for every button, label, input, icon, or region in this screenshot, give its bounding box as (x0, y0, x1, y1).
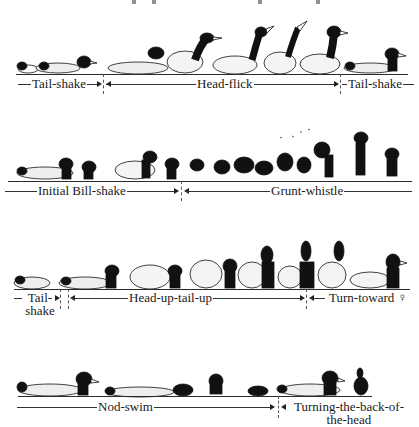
arrowhead-icon (334, 81, 339, 87)
divider (60, 289, 61, 309)
arrowhead-icon (300, 295, 305, 301)
arrowhead-icon (270, 404, 275, 410)
row-head-up-tail-up: Tail- shake Head-up-tail-up Turn-toward … (0, 220, 419, 335)
label-head-flick: Head-flick (196, 77, 254, 90)
label-tail-shake: Tail-shake (31, 77, 87, 90)
label-line: the-head (327, 412, 372, 427)
span-line (14, 298, 22, 299)
label-tail-shake-2: Tail-shake (347, 77, 403, 90)
water-line (8, 181, 412, 182)
water-line (18, 396, 372, 397)
divider (340, 74, 341, 94)
arrowhead-icon (97, 81, 102, 87)
duck-illustrations-row-2 (0, 110, 419, 183)
row-bill-shake-grunt-whistle: Initial Bill-shake Grunt-whistle (0, 110, 419, 220)
label-initial-bill-shake: Initial Bill-shake (37, 184, 127, 197)
row-tail-shake-head-flick: Tail-shake Head-flick Tail-shake (0, 0, 419, 110)
duck-illustrations-row-4 (0, 335, 419, 398)
label-grunt-whistle: Grunt-whistle (270, 184, 344, 197)
divider (278, 396, 279, 418)
label-turn-toward-female: Turn-toward ♀ (328, 291, 408, 304)
label-tail-shake-3: Tail- shake (22, 291, 58, 317)
arrowhead-icon (106, 81, 111, 87)
label-line: shake (25, 303, 55, 318)
duck-illustrations-row-1 (0, 0, 419, 76)
label-turning-the-back-of-the-head: Turning-the-back-of- the-head (286, 400, 412, 426)
divider (68, 289, 69, 309)
water-line (16, 74, 408, 75)
divider (181, 181, 182, 201)
divider (306, 289, 307, 309)
label-nod-swim: Nod-swim (97, 400, 154, 413)
divider (103, 74, 104, 94)
span-line (311, 298, 325, 299)
row-nod-swim: Nod-swim Turning-the-back-of- the-head (0, 335, 419, 427)
label-head-up-tail-up: Head-up-tail-up (128, 291, 213, 304)
arrowhead-icon (174, 188, 179, 194)
duck-illustrations-row-3 (0, 220, 419, 292)
